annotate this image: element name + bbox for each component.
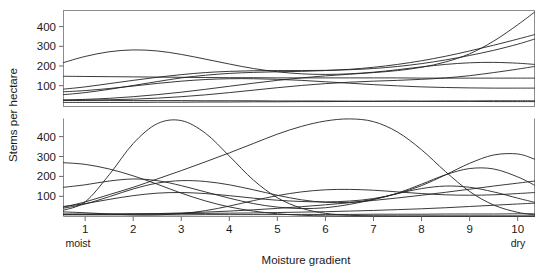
response-curve bbox=[64, 181, 535, 214]
bottom-y-tick-300: 300 bbox=[37, 151, 56, 163]
x-tick-label-3: 3 bbox=[178, 223, 184, 235]
x-tick-label-4: 4 bbox=[226, 223, 233, 235]
response-curve bbox=[64, 12, 535, 100]
x-tick-label-10: 10 bbox=[511, 223, 524, 235]
x-axis-start-label: moist bbox=[65, 237, 90, 249]
top-panel-y-axis: 400 300 200 100 bbox=[37, 21, 64, 92]
response-curve bbox=[64, 100, 535, 101]
species-response-curves-figure: Stems per hectare Moisture gradient mois… bbox=[0, 0, 551, 279]
response-curve bbox=[64, 154, 535, 207]
top-y-tick-100: 100 bbox=[37, 80, 56, 92]
x-axis-ticks: 12345678910 bbox=[82, 217, 524, 236]
top-panel-frame bbox=[64, 11, 535, 107]
x-axis-end-label: dry bbox=[511, 237, 526, 249]
y-axis-title: Stems per hectare bbox=[7, 68, 19, 162]
bottom-y-tick-100: 100 bbox=[37, 190, 56, 202]
response-curve bbox=[64, 189, 535, 215]
x-tick-label-9: 9 bbox=[466, 223, 472, 235]
chart-canvas: Stems per hectare Moisture gradient mois… bbox=[0, 0, 551, 279]
response-curve bbox=[64, 168, 535, 208]
top-panel-curves bbox=[64, 12, 535, 102]
x-tick-label-1: 1 bbox=[82, 223, 88, 235]
response-curve bbox=[64, 39, 535, 89]
x-tick-label-6: 6 bbox=[322, 223, 328, 235]
x-tick-label-8: 8 bbox=[418, 223, 424, 235]
bottom-panel: 400 300 200 100 12345678910 bbox=[37, 119, 535, 236]
x-axis-title: Moisture gradient bbox=[262, 254, 352, 266]
x-tick-label-5: 5 bbox=[274, 223, 280, 235]
bottom-panel-y-axis: 400 300 200 100 bbox=[37, 131, 64, 203]
bottom-y-tick-400: 400 bbox=[37, 131, 56, 143]
x-tick-label-7: 7 bbox=[370, 223, 376, 235]
top-y-tick-300: 300 bbox=[37, 40, 56, 52]
bottom-panel-curves bbox=[64, 119, 535, 216]
response-curve bbox=[64, 119, 535, 215]
bottom-y-tick-200: 200 bbox=[37, 170, 56, 182]
top-panel: 400 300 200 100 bbox=[37, 11, 535, 107]
top-y-tick-200: 200 bbox=[37, 60, 56, 72]
top-y-tick-400: 400 bbox=[37, 21, 56, 33]
x-tick-label-2: 2 bbox=[130, 223, 136, 235]
response-curve bbox=[64, 179, 535, 209]
